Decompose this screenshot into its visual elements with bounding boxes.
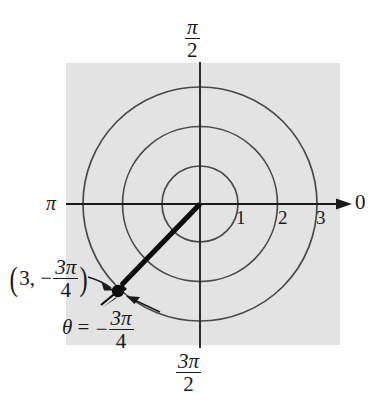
point-coordinate-label: (3, − 3π 4 ) <box>8 256 90 301</box>
radial-tick-label-3: 3 <box>316 208 326 227</box>
point-comma: , <box>30 266 35 290</box>
radial-tick-label-2: 2 <box>278 208 288 227</box>
angular-label-pi: π <box>46 193 56 213</box>
theta-symbol: θ <box>62 315 72 339</box>
point-minus-sign: − <box>39 266 53 290</box>
paren-close: ) <box>80 265 88 293</box>
fraction-pi-over-2: π 2 <box>185 16 200 61</box>
fraction-3pi-over-4: 3π 4 <box>53 256 78 301</box>
angular-label-3pi-over-2: 3π 2 <box>176 350 201 395</box>
polar-axis-arrowhead <box>336 199 352 210</box>
radial-tick-label-1: 1 <box>236 208 246 227</box>
fraction-denominator: 2 <box>176 373 201 395</box>
theta-equals-sign: = <box>78 315 90 339</box>
angular-label-zero: 0 <box>355 192 366 213</box>
plotted-point-marker <box>112 285 124 297</box>
fraction-numerator: 3π <box>53 256 78 279</box>
theta-minus-sign: − <box>95 317 109 341</box>
fraction-numerator: π <box>185 16 200 39</box>
fraction-3pi-over-2: 3π 2 <box>176 350 201 395</box>
theta-equation-label: θ = − 3π 4 <box>62 307 134 352</box>
fraction-numerator: 3π <box>176 350 201 373</box>
point-radius-value: 3 <box>19 266 30 290</box>
fraction-denominator: 4 <box>109 330 134 352</box>
polar-plot-figure: π 2 3π 2 π 0 1 2 3 (3, − 3π 4 ) θ = − 3π… <box>0 0 384 404</box>
fraction-numerator: 3π <box>109 307 134 330</box>
fraction-denominator: 2 <box>185 39 200 61</box>
paren-open: ( <box>10 265 18 293</box>
angular-label-pi-over-2: π 2 <box>185 16 200 61</box>
fraction-3pi-over-4: 3π 4 <box>109 307 134 352</box>
fraction-denominator: 4 <box>53 279 78 301</box>
